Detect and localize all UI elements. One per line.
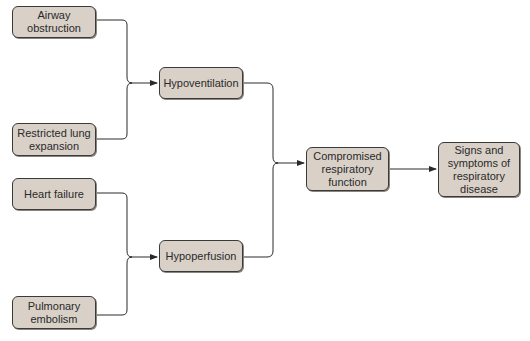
- node-compromised-respiratory-function: Compromised respiratory function: [306, 147, 389, 191]
- node-hypoventilation: Hypoventilation: [159, 67, 243, 99]
- node-restricted-lung-expansion: Restricted lung expansion: [12, 123, 96, 156]
- node-hypoperfusion: Hypoperfusion: [159, 240, 243, 272]
- node-signs-and-symptoms: Signs and symptoms of respiratory diseas…: [438, 142, 520, 197]
- node-pulmonary-embolism: Pulmonary embolism: [12, 296, 96, 329]
- node-airway-obstruction: Airway obstruction: [12, 6, 96, 38]
- node-heart-failure: Heart failure: [12, 178, 96, 210]
